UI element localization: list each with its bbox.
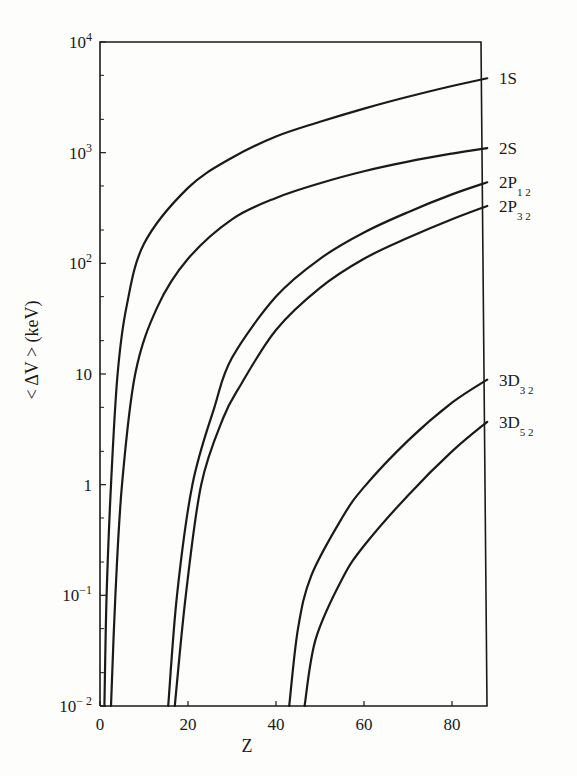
curve-label: 2P1 2	[499, 173, 531, 198]
curve-label: 2P3 2	[499, 197, 531, 222]
y-tick-label: 102	[69, 251, 92, 273]
y-tick-label: 1	[84, 476, 93, 495]
x-tick-label: 40	[268, 715, 285, 734]
curve-label: 1S	[499, 69, 517, 88]
x-axis-title: Z	[242, 736, 253, 756]
y-axis-title: < ΔV > (keV)	[22, 300, 43, 399]
curve-3d5-2	[305, 422, 488, 706]
curve-2p3-2	[175, 206, 487, 706]
curve-label: 3D3 2	[499, 371, 534, 396]
chart: 10410310210110−110− 2 020406080 1S2S2P1 …	[0, 0, 577, 776]
x-tick-label: 80	[444, 715, 461, 734]
x-tick-label: 60	[356, 715, 373, 734]
y-axis-ticks: 10410310210110−110− 2	[59, 30, 106, 716]
y-tick-label: 10− 2	[59, 694, 92, 716]
curves	[104, 78, 487, 706]
axes-box	[100, 42, 487, 706]
plot-frame	[100, 42, 487, 706]
y-tick-label: 104	[69, 30, 92, 52]
curve-1s	[104, 78, 487, 706]
y-tick-label: 10	[75, 365, 92, 384]
y-tick-label: 103	[69, 141, 92, 163]
x-tick-label: 0	[96, 715, 105, 734]
curve-3d3-2	[289, 380, 487, 706]
curve-label: 3D5 2	[499, 413, 534, 438]
curve-labels: 1S2S2P1 22P3 23D3 23D5 2	[499, 69, 534, 437]
y-tick-label: 10−1	[62, 583, 92, 605]
curve-2p1-2	[168, 182, 487, 706]
x-tick-label: 20	[180, 715, 197, 734]
curve-label: 2S	[499, 139, 517, 158]
